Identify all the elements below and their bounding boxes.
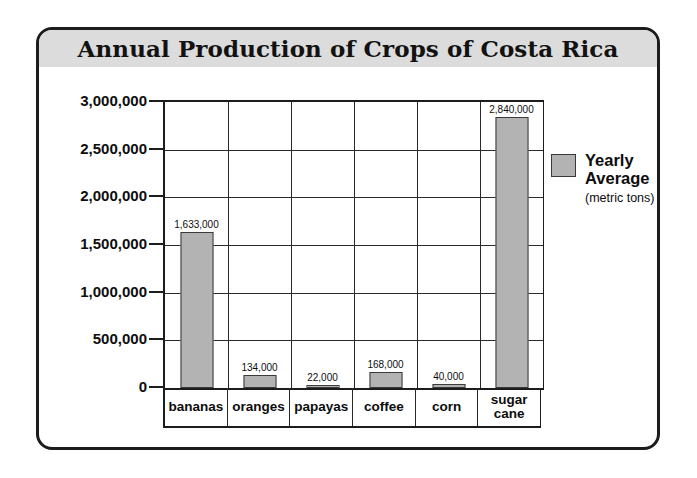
bar-value-label: 40,000 bbox=[433, 371, 464, 382]
y-axis-tick-label: 1,000,000 bbox=[80, 282, 147, 299]
y-axis-tick-mark bbox=[149, 243, 163, 245]
chart-title: Annual Production of Crops of Costa Rica bbox=[78, 35, 619, 62]
bar-slot: 134,000 bbox=[228, 102, 291, 388]
bar-value-label: 1,633,000 bbox=[174, 219, 219, 230]
legend-text: Yearly Average (metric tons) bbox=[585, 152, 654, 205]
bar-value-label: 22,000 bbox=[307, 372, 338, 383]
y-axis-tick-labels: 0500,0001,000,0001,500,0002,000,0002,500… bbox=[39, 30, 147, 447]
category-label-sugar-cane: sugarcane bbox=[478, 388, 540, 426]
y-axis-tick-mark bbox=[149, 386, 163, 388]
y-axis-tick-mark bbox=[149, 195, 163, 197]
legend-series-name: Yearly Average bbox=[585, 152, 654, 188]
plot-area: 1,633,000134,00022,000168,00040,0002,840… bbox=[163, 100, 544, 390]
y-axis-tick-label: 2,000,000 bbox=[80, 187, 147, 204]
y-axis-tick-label: 3,000,000 bbox=[80, 92, 147, 109]
y-axis-tick-mark bbox=[149, 338, 163, 340]
bar-value-label: 134,000 bbox=[241, 362, 277, 373]
y-axis-tick-mark bbox=[149, 148, 163, 150]
bar-value-label: 168,000 bbox=[367, 359, 403, 370]
y-axis-tick-label: 2,500,000 bbox=[80, 139, 147, 156]
legend-series-units: (metric tons) bbox=[585, 192, 654, 206]
legend-swatch-yearly-average bbox=[551, 154, 576, 177]
bar-slot: 168,000 bbox=[354, 102, 417, 388]
chart-frame: Annual Production of Crops of Costa Rica… bbox=[36, 27, 660, 450]
bar-value-label: 2,840,000 bbox=[489, 104, 534, 115]
bar-oranges[interactable] bbox=[243, 375, 276, 388]
category-label-papayas: papayas bbox=[290, 388, 353, 426]
bar-slot: 2,840,000 bbox=[480, 102, 543, 388]
bar-coffee[interactable] bbox=[369, 372, 402, 388]
category-label-row: bananasorangespapayascoffeecornsugarcane bbox=[163, 388, 541, 428]
chart-legend: Yearly Average (metric tons) bbox=[551, 152, 654, 205]
y-axis-tick-label: 1,500,000 bbox=[80, 235, 147, 252]
y-axis-tick-label: 0 bbox=[139, 378, 147, 395]
bar-slot: 1,633,000 bbox=[165, 102, 228, 388]
bar-slot: 22,000 bbox=[291, 102, 354, 388]
category-label-corn: corn bbox=[416, 388, 479, 426]
category-label-coffee: coffee bbox=[353, 388, 416, 426]
y-axis-tick-label: 500,000 bbox=[93, 330, 147, 347]
bar-slot: 40,000 bbox=[417, 102, 480, 388]
category-label-bananas: bananas bbox=[165, 388, 228, 426]
bar-sugar-cane[interactable] bbox=[495, 117, 528, 388]
y-axis-tick-mark bbox=[149, 291, 163, 293]
y-axis-tick-mark bbox=[149, 100, 163, 102]
bar-bananas[interactable] bbox=[180, 232, 213, 388]
category-label-oranges: oranges bbox=[228, 388, 291, 426]
